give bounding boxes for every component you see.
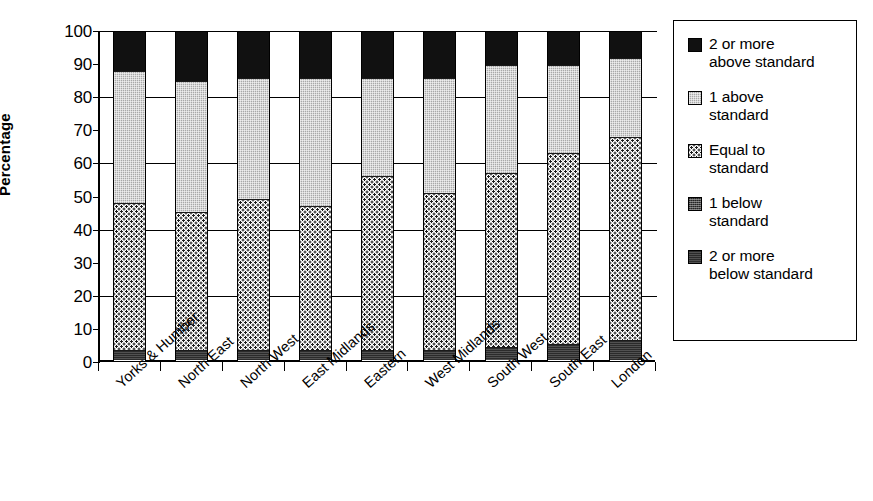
stacked-bar-chart: Percentage 1009080706050403020100 Yorks … xyxy=(0,0,873,501)
y-axis-tick-label: 10 xyxy=(46,320,92,337)
bar-segment xyxy=(238,32,269,78)
bar-segment xyxy=(176,81,207,212)
y-axis-tick-label: 40 xyxy=(46,221,92,238)
y-axis-tick-labels: 1009080706050403020100 xyxy=(44,31,92,362)
bar xyxy=(547,31,580,362)
legend-swatch-icon xyxy=(688,250,702,264)
legend-item: 1 belowstandard xyxy=(688,194,846,230)
legend-label: Equal tostandard xyxy=(709,141,769,177)
y-axis-tick-label: 100 xyxy=(46,23,92,40)
bar xyxy=(299,31,332,362)
bar-segment xyxy=(424,78,455,193)
legend-item: 1 abovestandard xyxy=(688,88,846,124)
x-axis-tick xyxy=(284,362,285,371)
legend-item: 2 or moreabove standard xyxy=(688,35,846,71)
bar-segment xyxy=(238,78,269,199)
x-axis-tick xyxy=(593,362,594,371)
bar xyxy=(113,31,146,362)
bar-segment xyxy=(362,78,393,176)
y-axis-tick-label: 70 xyxy=(46,122,92,139)
bar-segment xyxy=(114,203,145,351)
y-axis-tick-label: 20 xyxy=(46,287,92,304)
legend-item: Equal tostandard xyxy=(688,141,846,177)
y-axis-tick-label: 80 xyxy=(46,89,92,106)
bar-segment xyxy=(114,71,145,202)
legend-label: 2 or moreabove standard xyxy=(709,35,814,71)
legend-swatch-icon xyxy=(688,91,702,105)
legend-label: 2 or morebelow standard xyxy=(709,247,813,283)
bar-segment xyxy=(548,65,579,154)
x-axis-tick xyxy=(346,362,347,371)
x-axis-tick xyxy=(407,362,408,371)
legend-swatch-icon xyxy=(688,197,702,211)
y-axis-title: Percentage xyxy=(0,0,13,196)
bars-layer xyxy=(98,31,655,362)
x-axis-tick xyxy=(160,362,161,371)
bar-segment xyxy=(548,32,579,65)
y-axis-tick-label: 90 xyxy=(46,56,92,73)
x-axis-tick xyxy=(222,362,223,371)
y-axis-tick-label: 0 xyxy=(46,354,92,371)
legend-swatch-icon xyxy=(688,144,702,158)
bar-segment xyxy=(610,32,641,58)
bar-segment xyxy=(300,78,331,206)
bar-segment xyxy=(176,32,207,81)
y-axis-tick-label: 50 xyxy=(46,188,92,205)
bar-segment xyxy=(300,32,331,78)
bar-segment xyxy=(362,32,393,78)
legend-item: 2 or morebelow standard xyxy=(688,247,846,283)
bar-segment xyxy=(548,153,579,343)
bar-segment xyxy=(424,32,455,78)
bar-segment xyxy=(238,199,269,350)
bar-segment xyxy=(424,193,455,350)
x-axis-tick xyxy=(531,362,532,371)
bar xyxy=(609,31,642,362)
bar-segment xyxy=(610,137,641,340)
bar-segment xyxy=(610,58,641,137)
bar xyxy=(361,31,394,362)
bar xyxy=(237,31,270,362)
bar-segment xyxy=(486,65,517,173)
x-axis-tick xyxy=(98,362,99,371)
bar xyxy=(423,31,456,362)
chart-legend: 2 or moreabove standard1 abovestandardEq… xyxy=(673,20,857,341)
bar-segment xyxy=(300,206,331,350)
legend-label: 1 abovestandard xyxy=(709,88,769,124)
x-axis-tick xyxy=(655,362,656,371)
bar-segment xyxy=(486,32,517,65)
x-axis-tick xyxy=(469,362,470,371)
legend-label: 1 belowstandard xyxy=(709,194,769,230)
y-axis-tick-label: 30 xyxy=(46,254,92,271)
bar xyxy=(485,31,518,362)
y-axis-tick-label: 60 xyxy=(46,155,92,172)
legend-swatch-icon xyxy=(688,38,702,52)
bar-segment xyxy=(114,32,145,71)
